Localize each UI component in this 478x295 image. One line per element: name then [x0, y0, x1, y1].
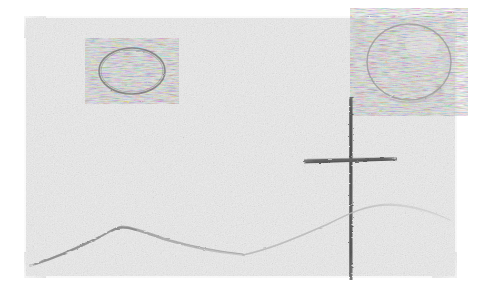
sketch-svg: [0, 0, 478, 295]
artwork-canvas: Pencil Sketch — Landscape with Cross and…: [0, 0, 478, 295]
paper-grain-overlay: [24, 16, 457, 278]
